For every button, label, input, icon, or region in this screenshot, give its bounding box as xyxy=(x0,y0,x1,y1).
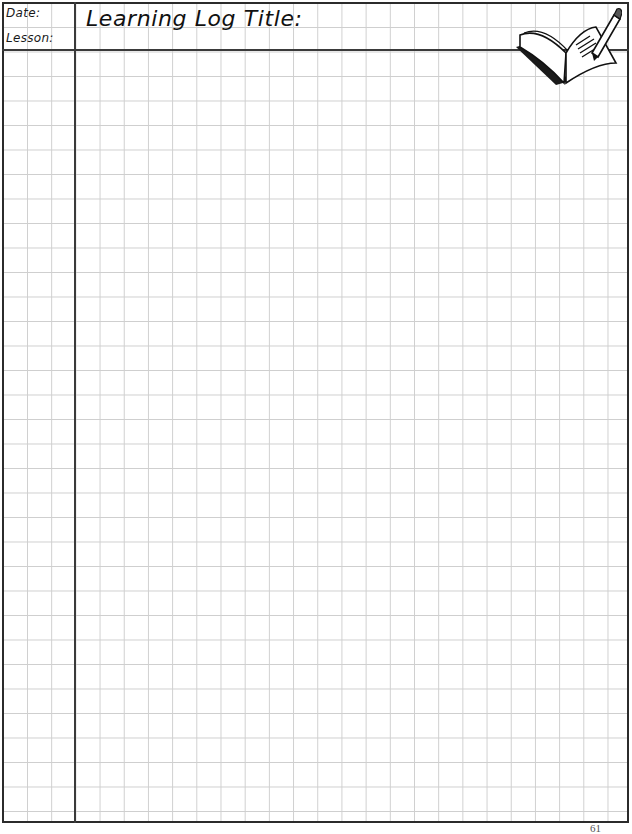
date-label: Date: xyxy=(6,6,40,20)
book-with-pencil-icon xyxy=(510,5,622,87)
learning-log-title-label: Learning Log Title: xyxy=(86,6,303,31)
page-number: 61 xyxy=(590,822,601,834)
graph-paper-sheet xyxy=(2,2,629,823)
left-margin-divider xyxy=(74,2,76,823)
lesson-label: Lesson: xyxy=(6,31,54,45)
